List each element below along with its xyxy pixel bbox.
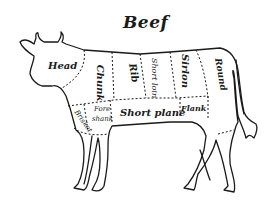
cut-label-rib: Rib: [127, 63, 140, 84]
beef-cuts-diagram: Beef Head Chunk Rib Short loin Sirlon Ro…: [0, 0, 275, 208]
cut-label-fore-shank-1: Fore: [94, 106, 110, 113]
cut-label-fore-shank-2: shank: [92, 116, 113, 123]
cut-label-chuck: Chunk: [95, 65, 105, 102]
diagram-title: Beef: [123, 12, 168, 32]
cut-label-short-loin: Short loin: [150, 58, 158, 98]
cut-label-short-plate: Short plane: [120, 108, 185, 118]
cut-label-flank: Flank: [181, 104, 206, 112]
cut-label-head: Head: [48, 61, 77, 71]
cut-label-sirloin: Sirlon: [180, 54, 190, 88]
